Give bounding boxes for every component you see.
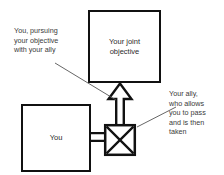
annotation-right: Your ally, who allows you to pass and is… [169, 89, 224, 137]
leader-line-left [55, 63, 116, 100]
node-ally [105, 125, 135, 155]
connector-you-to-ally [91, 133, 104, 141]
annotation-left: You, pursuing your objective with your a… [14, 26, 92, 55]
connector-ally-to-joint-arrow [109, 84, 132, 125]
diagram-canvas: Your joint objective You You, pursuing y… [0, 0, 224, 175]
